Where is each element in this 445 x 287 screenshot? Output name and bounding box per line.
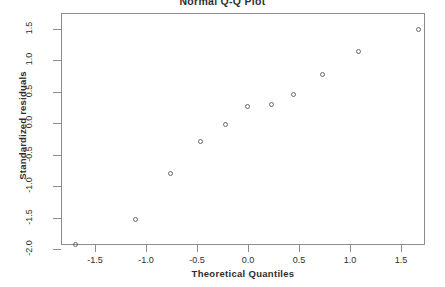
x-axis-tick-label: 1.5 [381, 255, 421, 265]
y-axis-tick [53, 249, 61, 250]
y-axis-tick-label: 1.5 [24, 13, 34, 43]
x-axis-tick [197, 245, 198, 252]
data-point [245, 104, 250, 109]
data-point [168, 171, 173, 176]
x-axis-tick-label: 0.0 [228, 255, 268, 265]
x-axis-tick-label: -1.0 [126, 255, 166, 265]
x-axis-title: Theoretical Quantiles [61, 268, 425, 279]
y-axis-tick-label: -2.0 [24, 233, 34, 263]
x-axis-tick [146, 245, 147, 252]
y-axis-tick-label: -1.5 [24, 202, 34, 232]
y-axis-tick [53, 29, 61, 30]
x-axis-tick [95, 245, 96, 252]
y-axis-tick [53, 60, 61, 61]
x-axis-tick-label: -0.5 [177, 255, 217, 265]
page-title: Normal Q-Q Plot [0, 0, 445, 7]
y-axis-title: Standardized residuals [17, 56, 28, 196]
y-axis-tick [53, 218, 61, 219]
y-axis-tick [53, 155, 61, 156]
x-axis-tick-label: -1.5 [75, 255, 115, 265]
y-axis-tick [53, 92, 61, 93]
x-axis-tick-label: 0.5 [279, 255, 319, 265]
data-point [416, 27, 421, 32]
normal-qq-plot: Normal Q-Q Plot 1.51.00.50.0-0.5-1.0-1.5… [0, 0, 445, 287]
y-axis-tick [53, 186, 61, 187]
x-axis-tick [248, 245, 249, 252]
x-axis-tick-label: 1.0 [330, 255, 370, 265]
data-point [73, 242, 78, 247]
x-axis-tick [350, 245, 351, 252]
x-axis-tick [299, 245, 300, 252]
data-point [320, 72, 325, 77]
data-point [223, 122, 228, 127]
y-axis-tick [53, 123, 61, 124]
x-axis-tick [401, 245, 402, 252]
plot-area [61, 13, 425, 245]
